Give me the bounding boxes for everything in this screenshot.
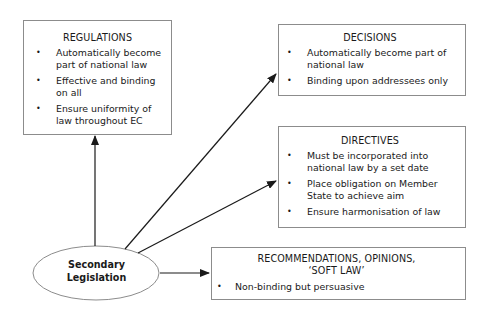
directives-box: DIRECTIVES Must be incorporated into nat… [278, 126, 466, 228]
directives-title: DIRECTIVES [279, 135, 461, 147]
arrow-to-directives [138, 181, 276, 253]
directives-list: Must be incorporated into national law b… [279, 150, 461, 218]
decisions-box: DECISIONS Automatically become part of n… [278, 24, 466, 96]
secondary-legislation-label: Secondary Legislation [33, 258, 160, 284]
recommendations-box: RECOMMENDATIONS, OPINIONS, ‘SOFT LAW’ No… [211, 247, 466, 300]
recommendations-title: RECOMMENDATIONS, OPINIONS, ‘SOFT LAW’ [212, 253, 461, 277]
list-item: Ensure uniformity of law throughout EC [28, 103, 167, 127]
list-item: Non-binding but persuasive [212, 281, 461, 293]
list-item: Binding upon addressees only [279, 75, 461, 87]
recommendations-list: Non-binding but persuasive [212, 281, 461, 293]
decisions-title: DECISIONS [279, 32, 461, 44]
decisions-list: Automatically become part of national la… [279, 47, 461, 87]
regulations-box: REGULATIONS Automatically become part of… [23, 20, 172, 135]
regulations-title: REGULATIONS [28, 32, 167, 44]
list-item: Ensure harmonisation of law [279, 206, 461, 218]
recommendations-title-line2: ‘SOFT LAW’ [212, 265, 461, 277]
regulations-list: Automatically become part of national la… [28, 47, 167, 127]
list-item: Must be incorporated into national law b… [279, 150, 461, 174]
central-node-line2: Legislation [33, 271, 160, 284]
list-item: Effective and binding on all [28, 75, 167, 99]
central-node-line1: Secondary [33, 258, 160, 271]
list-item: Automatically become part of national la… [28, 47, 167, 71]
list-item: Automatically become part of national la… [279, 47, 461, 71]
list-item: Place obligation on Member State to achi… [279, 178, 461, 202]
recommendations-title-line1: RECOMMENDATIONS, OPINIONS, [212, 253, 461, 265]
